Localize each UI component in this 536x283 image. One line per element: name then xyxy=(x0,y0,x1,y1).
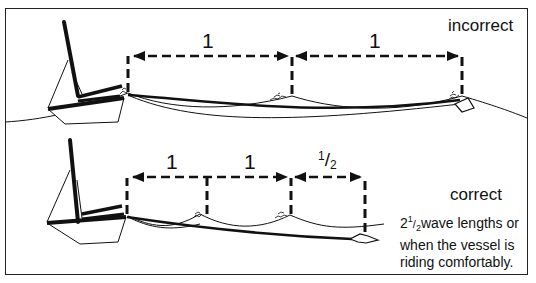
note-line-2: when the vessel is xyxy=(400,237,519,254)
span-label-2: 1 xyxy=(244,151,256,172)
span-label-2: 1 xyxy=(369,30,381,51)
span-label-half: 1/2 xyxy=(318,149,337,172)
anchor-rode-line xyxy=(127,217,352,239)
sea-surface-wave-icon xyxy=(128,214,384,227)
correct-label: correct xyxy=(450,186,502,204)
wavelength-dimension-arrows xyxy=(128,56,462,94)
span-label-1: 1 xyxy=(202,30,214,51)
incorrect-label: incorrect xyxy=(448,17,513,35)
wavelength-dimension-arrows xyxy=(127,177,365,232)
anchor-icon xyxy=(350,234,378,243)
incorrect-scenario xyxy=(5,22,527,124)
note-line-3: riding comfortably. xyxy=(400,254,519,271)
anchor-rode-scope-diagram: incorrect 1 1 1 1 1/2 correct 21/2wave l… xyxy=(0,0,536,283)
note-line-1: 21/2wave lengths or xyxy=(400,211,519,237)
fraction-numerator: 1 xyxy=(318,149,325,163)
sailboat-icon xyxy=(48,22,124,124)
sailboat-icon xyxy=(47,140,126,244)
fraction-denominator: 2 xyxy=(330,158,337,172)
span-label-1: 1 xyxy=(166,151,178,172)
correct-note: 21/2wave lengths or when the vessel is r… xyxy=(400,211,519,271)
